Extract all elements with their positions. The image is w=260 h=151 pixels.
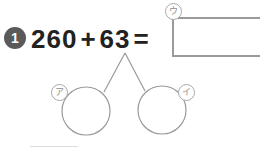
decomposition-diagram [0, 0, 260, 151]
branch-line-left [104, 53, 125, 92]
worksheet-page: 1 260+63= ウ ア イ [0, 0, 260, 151]
marker-label-i: イ [178, 84, 195, 101]
marker-label-u: ウ [165, 3, 182, 20]
marker-label-a: ア [51, 84, 68, 101]
page-edge-artifact [30, 146, 78, 147]
decomposition-circle-left[interactable] [62, 87, 110, 135]
branch-line-right [125, 53, 145, 91]
